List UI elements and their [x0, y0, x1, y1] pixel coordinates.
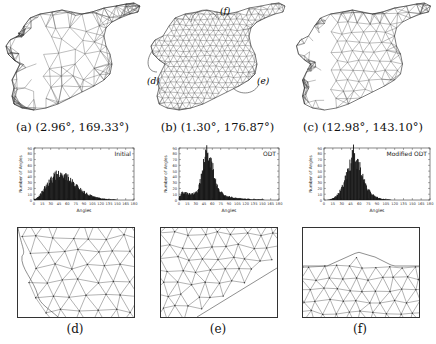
svg-text:75: 75	[73, 202, 78, 206]
svg-text:45: 45	[57, 202, 62, 206]
svg-text:45: 45	[348, 202, 353, 206]
zoom-detail-f	[302, 227, 420, 318]
histogram-odt: 0102030405060708090015304560759010512013…	[155, 144, 285, 216]
svg-text:50: 50	[172, 170, 177, 174]
svg-text:105: 105	[382, 202, 389, 206]
mesh-panel-b: (f) (d) (e) (b) (1.30°, 176.87°)	[145, 0, 290, 140]
svg-text:Modified ODT: Modified ODT	[386, 150, 427, 157]
svg-text:165: 165	[122, 202, 129, 206]
svg-text:30: 30	[48, 202, 53, 206]
svg-text:60: 60	[317, 164, 322, 168]
svg-text:10: 10	[172, 193, 177, 197]
svg-text:ODT: ODT	[263, 150, 276, 157]
svg-text:80: 80	[27, 152, 32, 156]
svg-text:75: 75	[218, 202, 223, 206]
callout-e-arc	[233, 84, 259, 93]
svg-text:50: 50	[317, 170, 322, 174]
svg-text:0: 0	[33, 202, 36, 206]
svg-text:30: 30	[339, 202, 344, 206]
svg-text:165: 165	[267, 202, 274, 206]
svg-text:Angles: Angles	[370, 208, 385, 213]
caption-e: (e)	[188, 322, 248, 336]
svg-text:20: 20	[172, 187, 177, 191]
callout-e-label: (e)	[257, 76, 270, 86]
svg-text:90: 90	[375, 202, 380, 206]
svg-text:20: 20	[317, 187, 322, 191]
svg-text:105: 105	[234, 202, 241, 206]
svg-text:150: 150	[409, 202, 417, 206]
svg-text:0: 0	[178, 202, 181, 206]
svg-text:90: 90	[27, 147, 32, 151]
svg-text:30: 30	[317, 181, 322, 185]
svg-text:135: 135	[251, 202, 258, 206]
svg-text:120: 120	[97, 202, 105, 206]
svg-text:60: 60	[27, 164, 32, 168]
svg-text:80: 80	[172, 152, 177, 156]
caption-d: (d)	[45, 322, 105, 336]
svg-text:Initial: Initial	[114, 150, 131, 157]
svg-text:135: 135	[106, 202, 113, 206]
svg-text:70: 70	[172, 158, 177, 162]
zoom-detail-e	[160, 227, 278, 318]
svg-text:40: 40	[27, 175, 32, 179]
svg-text:90: 90	[227, 202, 232, 206]
svg-text:30: 30	[27, 181, 32, 185]
mesh-panel-c: (c) (12.98°, 143.10°)	[290, 0, 436, 140]
svg-text:30: 30	[172, 181, 177, 185]
callout-f-label: (f)	[220, 6, 231, 16]
svg-text:165: 165	[418, 202, 425, 206]
svg-text:120: 120	[242, 202, 250, 206]
mesh-odt-image: (f) (d) (e)	[145, 0, 290, 118]
svg-text:150: 150	[114, 202, 122, 206]
svg-text:15: 15	[40, 202, 45, 206]
svg-text:15: 15	[185, 202, 190, 206]
mesh-initial-image	[0, 0, 145, 118]
svg-text:180: 180	[131, 202, 139, 206]
svg-text:90: 90	[317, 147, 322, 151]
svg-text:Number of Angles: Number of Angles	[308, 155, 313, 193]
svg-text:60: 60	[172, 164, 177, 168]
caption-a: (a) (2.96°, 169.33°)	[0, 120, 145, 134]
svg-text:75: 75	[366, 202, 371, 206]
svg-text:180: 180	[276, 202, 284, 206]
mesh-panel-a: (a) (2.96°, 169.33°)	[0, 0, 145, 140]
svg-text:40: 40	[317, 175, 322, 179]
svg-text:150: 150	[259, 202, 267, 206]
caption-b: (b) (1.30°, 176.87°)	[145, 120, 290, 134]
svg-text:60: 60	[357, 202, 362, 206]
svg-text:50: 50	[27, 170, 32, 174]
svg-text:180: 180	[427, 202, 435, 206]
svg-text:Angles: Angles	[77, 208, 92, 213]
svg-text:0: 0	[323, 202, 326, 206]
svg-text:15: 15	[331, 202, 336, 206]
svg-text:40: 40	[172, 175, 177, 179]
caption-f: (f)	[330, 322, 390, 336]
svg-text:135: 135	[400, 202, 407, 206]
histogram-initial: 0102030405060708090015304560759010512013…	[10, 144, 140, 216]
svg-text:Angles: Angles	[222, 208, 237, 213]
svg-text:10: 10	[27, 193, 32, 197]
mesh-modified-odt-image	[290, 0, 436, 118]
svg-text:90: 90	[172, 147, 177, 151]
svg-text:10: 10	[317, 193, 322, 197]
zoom-detail-d	[17, 227, 135, 318]
svg-text:90: 90	[82, 202, 87, 206]
svg-text:20: 20	[27, 187, 32, 191]
svg-text:70: 70	[317, 158, 322, 162]
svg-text:70: 70	[27, 158, 32, 162]
caption-c: (c) (12.98°, 143.10°)	[290, 120, 436, 134]
histogram-modified-odt: 0102030405060708090015304560759010512013…	[300, 144, 436, 216]
svg-text:60: 60	[65, 202, 70, 206]
svg-text:120: 120	[391, 202, 399, 206]
svg-text:Number of Angles: Number of Angles	[163, 155, 168, 193]
svg-text:45: 45	[202, 202, 207, 206]
svg-text:105: 105	[89, 202, 96, 206]
callout-d-label: (d)	[147, 76, 160, 86]
svg-text:60: 60	[210, 202, 215, 206]
svg-text:Number of Angles: Number of Angles	[18, 155, 23, 193]
svg-text:80: 80	[317, 152, 322, 156]
svg-text:30: 30	[193, 202, 198, 206]
